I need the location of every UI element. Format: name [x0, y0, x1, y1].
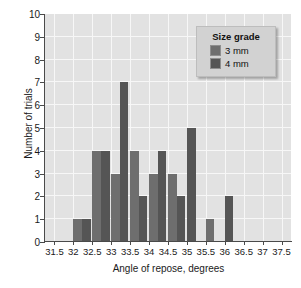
y-tick-label: 3 [18, 168, 40, 179]
y-tick-mark [40, 151, 45, 152]
legend-title: Size grade [202, 31, 270, 42]
x-tick-mark [282, 242, 283, 245]
x-tick-mark [187, 242, 188, 245]
gridline-vertical [282, 14, 283, 242]
x-tick-mark [130, 242, 131, 245]
y-tick-mark [40, 14, 45, 15]
bar [130, 151, 139, 242]
x-tick-label: 35.5 [197, 246, 216, 257]
bar [158, 151, 167, 242]
y-tick-mark [40, 219, 45, 220]
x-tick-label: 36 [219, 246, 230, 257]
x-tick-label: 31.5 [45, 246, 64, 257]
x-tick-label: 37 [257, 246, 268, 257]
x-tick-label: 34 [144, 246, 155, 257]
y-tick-mark [40, 174, 45, 175]
x-tick-label: 33.5 [121, 246, 140, 257]
x-tick-mark [244, 242, 245, 245]
y-tick-label: 10 [18, 9, 40, 20]
gridline-vertical [73, 14, 74, 242]
bar [73, 219, 82, 242]
bar [101, 151, 110, 242]
y-tick-label: 6 [18, 100, 40, 111]
y-tick-mark [40, 242, 45, 243]
bar [187, 128, 196, 242]
legend-item-3mm: 3 mm [210, 45, 270, 56]
bar [111, 174, 120, 242]
y-tick-mark [40, 60, 45, 61]
legend-label-4mm: 4 mm [225, 58, 249, 69]
x-tick-mark [168, 242, 169, 245]
bar [92, 151, 101, 242]
legend-label-3mm: 3 mm [225, 45, 249, 56]
y-tick-label: 4 [18, 145, 40, 156]
x-tick-label: 36.5 [234, 246, 253, 257]
bar [120, 82, 129, 242]
y-axis-tick-labels: 012345678910 [18, 14, 40, 242]
y-tick-mark [40, 37, 45, 38]
x-tick-label: 34.5 [159, 246, 178, 257]
bar [168, 174, 177, 242]
y-tick-mark [40, 128, 45, 129]
legend-item-4mm: 4 mm [210, 58, 270, 69]
x-tick-label: 33 [106, 246, 117, 257]
x-tick-label: 37.5 [272, 246, 291, 257]
bar [225, 196, 234, 242]
x-tick-mark [92, 242, 93, 245]
y-tick-label: 0 [18, 237, 40, 248]
x-tick-label: 32 [68, 246, 79, 257]
x-tick-mark [73, 242, 74, 245]
y-tick-mark [40, 105, 45, 106]
x-axis-title: Angle of repose, degrees [45, 263, 292, 274]
bar [177, 196, 186, 242]
y-tick-label: 7 [18, 77, 40, 88]
gridline-vertical [54, 14, 55, 242]
legend-swatch-4mm [210, 58, 221, 69]
legend-swatch-3mm [210, 45, 221, 56]
x-tick-label: 35 [182, 246, 193, 257]
bar [206, 219, 215, 242]
x-tick-mark [206, 242, 207, 245]
bar [149, 174, 158, 242]
y-tick-mark [40, 196, 45, 197]
x-tick-label: 32.5 [83, 246, 102, 257]
y-tick-mark [40, 82, 45, 83]
y-tick-label: 2 [18, 191, 40, 202]
x-tick-mark [225, 242, 226, 245]
x-axis-tick-labels: 31.53232.53333.53434.53535.53636.53737.5 [45, 246, 292, 260]
y-tick-label: 8 [18, 54, 40, 65]
y-tick-label: 9 [18, 31, 40, 42]
x-tick-mark [54, 242, 55, 245]
bar [82, 219, 91, 242]
x-tick-mark [263, 242, 264, 245]
x-tick-mark [149, 242, 150, 245]
bar [139, 196, 148, 242]
y-tick-label: 5 [18, 123, 40, 134]
x-tick-mark [111, 242, 112, 245]
chart-figure: Number of trials 012345678910 31.53232.5… [0, 0, 301, 288]
legend: Size grade 3 mm 4 mm [196, 26, 276, 77]
y-tick-label: 1 [18, 214, 40, 225]
